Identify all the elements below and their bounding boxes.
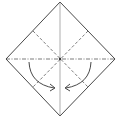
fold-arrow-right-icon — [65, 62, 91, 91]
origami-diagram: Origami fold step: square base — [0, 0, 118, 122]
fold-diagram-svg — [0, 0, 118, 122]
center-point — [59, 58, 61, 60]
fold-arrow-left-icon — [29, 62, 55, 91]
